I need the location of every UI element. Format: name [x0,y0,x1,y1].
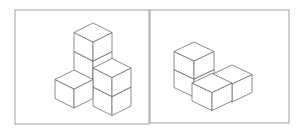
cube-diagram [0,0,299,131]
right-cube-structure [174,42,252,111]
left-cube-structure [55,23,131,116]
